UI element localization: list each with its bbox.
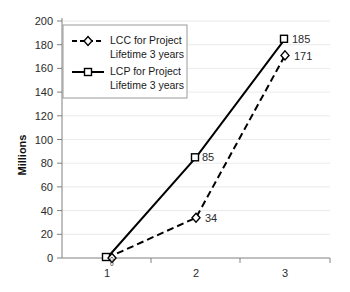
y-tick-label: 140 <box>35 86 53 98</box>
data-label-lcp-origin: 0 <box>110 256 114 263</box>
chart-container: 200 180 160 140 120 100 80 60 40 20 0 1 … <box>0 0 350 292</box>
y-tick-label: 180 <box>35 39 53 51</box>
legend-label-lcc-line1: LCC for Project <box>110 34 182 46</box>
x-tick-label: 2 <box>193 267 199 279</box>
y-tick-label: 0 <box>47 252 53 264</box>
x-tick-label: 3 <box>282 267 288 279</box>
y-tick-label: 60 <box>41 181 53 193</box>
chart-legend: LCC for Project Lifetime 3 years LCP for… <box>63 25 187 98</box>
square-marker <box>85 69 92 76</box>
legend-label-lcc-line2: Lifetime 3 years <box>110 48 184 60</box>
data-label-lcc-x3: 171 <box>294 50 312 62</box>
legend-label-lcp-line1: LCP for Project <box>110 65 181 77</box>
y-tick-label: 120 <box>35 110 53 122</box>
x-tick-label: 1 <box>104 267 110 279</box>
legend-label-lcp-line2: Lifetime 3 years <box>110 79 184 91</box>
data-label-lcp-x2: 85 <box>202 151 214 163</box>
y-axis-title: Millions <box>16 135 28 176</box>
square-marker <box>281 35 288 42</box>
y-tick-label: 100 <box>35 134 53 146</box>
square-marker <box>192 154 199 161</box>
y-tick-label: 20 <box>41 228 53 240</box>
y-tick-label: 40 <box>41 205 53 217</box>
data-label-lcc-x2: 34 <box>205 212 217 224</box>
y-tick-label: 80 <box>41 157 53 169</box>
data-label-lcp-x3: 185 <box>292 33 310 45</box>
y-tick-label: 200 <box>35 15 53 27</box>
y-tick-label: 160 <box>35 62 53 74</box>
